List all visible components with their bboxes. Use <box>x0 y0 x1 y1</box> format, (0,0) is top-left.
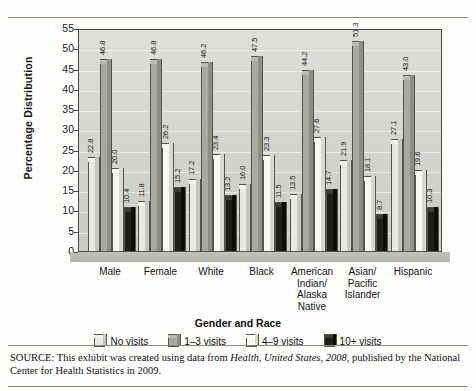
bar-side-face <box>131 207 136 251</box>
bar[interactable]: 11.8 <box>138 204 147 252</box>
y-tick-mark <box>74 70 78 71</box>
bar[interactable]: 46.2 <box>201 65 210 252</box>
bar[interactable]: 15.2 <box>174 190 183 252</box>
x-category-label-line: Indian/ <box>283 278 341 290</box>
bar[interactable]: 13.5 <box>290 197 299 252</box>
bar-value-label: 44.2 <box>300 52 309 66</box>
bar[interactable]: 51.3 <box>352 44 361 252</box>
bar-value-label: 51.3 <box>351 23 360 37</box>
bar-group: 17.246.223.413.2 <box>189 29 234 252</box>
y-tick-30: 30 <box>48 123 74 135</box>
x-category-label-line: Male <box>81 266 139 278</box>
bar[interactable]: 10.4 <box>124 210 133 252</box>
x-category-label: Asian/PacificIslander <box>334 266 392 301</box>
figure-container: Percentage Distribution 0510152025303540… <box>0 0 476 391</box>
x-category-label: White <box>182 266 240 278</box>
x-category-label-line: Pacific <box>334 278 392 290</box>
bar[interactable]: 8.7 <box>376 217 385 252</box>
x-category-label-line: Islander <box>334 289 392 301</box>
bar-side-face <box>434 207 439 251</box>
bar-value-label: 46.8 <box>149 41 158 55</box>
y-tick-mark <box>74 211 78 212</box>
bar[interactable]: 22.8 <box>88 160 97 252</box>
bar-value-label: 11.5 <box>274 185 283 199</box>
bar-value-label: 22.8 <box>86 138 95 152</box>
y-tick-mark <box>74 171 78 172</box>
y-tick-10: 10 <box>48 204 74 216</box>
bar-value-label: 18.1 <box>363 157 372 171</box>
x-category-label: AmericanIndian/AlaskaNative <box>283 266 341 312</box>
y-tick-55: 55 <box>48 22 74 34</box>
bar[interactable]: 16.0 <box>239 187 248 252</box>
bar-value-label: 14.7 <box>324 171 333 185</box>
y-tick-15: 15 <box>48 184 74 196</box>
bottom-divider-rule <box>8 386 468 387</box>
bar[interactable]: 19.6 <box>415 173 424 252</box>
bar[interactable]: 14.7 <box>326 192 335 252</box>
bar[interactable]: 20.0 <box>112 171 121 252</box>
y-tick-mark <box>74 29 78 30</box>
bar[interactable]: 47.5 <box>251 59 260 252</box>
y-tick-mark <box>74 252 78 253</box>
bar[interactable]: 23.4 <box>213 157 222 252</box>
bar-side-face <box>232 195 237 251</box>
bar[interactable]: 46.8 <box>100 62 109 252</box>
x-category-label-line: Black <box>233 266 291 278</box>
bar-value-label: 11.8 <box>137 184 146 198</box>
bar-value-label: 13.2 <box>223 177 232 191</box>
bar-value-label: 23.3 <box>262 136 271 150</box>
bar[interactable]: 43.0 <box>403 78 412 252</box>
bar-value-label: 15.2 <box>173 169 182 183</box>
x-category-label: Black <box>233 266 291 278</box>
bar[interactable]: 27.1 <box>391 142 400 252</box>
bar[interactable]: 26.2 <box>162 146 171 252</box>
bar-group: 16.047.523.311.5 <box>239 29 284 252</box>
source-italic-title: Health, United States, 2008 <box>230 352 346 363</box>
bar-value-label: 21.9 <box>339 142 348 156</box>
bar[interactable]: 46.8 <box>150 62 159 252</box>
y-tick-35: 35 <box>48 103 74 115</box>
bar-group: 22.846.820.010.4 <box>88 29 133 252</box>
bar-side-face <box>181 187 186 251</box>
bar-value-label: 10.4 <box>122 189 131 203</box>
x-category-label-line: Alaska <box>283 289 341 301</box>
x-category-label-line: Native <box>283 301 341 313</box>
bar-value-label: 23.4 <box>211 136 220 150</box>
x-category-label: Female <box>132 266 190 278</box>
bar[interactable]: 21.9 <box>340 163 349 252</box>
x-category-label: Hispanic <box>384 266 442 278</box>
source-top-rule <box>8 345 468 346</box>
bar[interactable]: 23.3 <box>263 158 272 252</box>
y-tick-mark <box>74 191 78 192</box>
bar[interactable]: 10.3 <box>427 210 436 252</box>
y-tick-mark <box>74 151 78 152</box>
bar-value-label: 47.5 <box>250 38 259 52</box>
bar[interactable]: 11.5 <box>275 205 284 252</box>
bar-value-label: 43.0 <box>401 56 410 70</box>
bar-value-label: 27.6 <box>312 119 321 133</box>
bar-value-label: 27.1 <box>389 121 398 135</box>
bar-group: 21.951.318.18.7 <box>340 29 385 252</box>
chart-floor-left-edge <box>70 252 79 262</box>
y-axis-tick-labels: 0510152025303540455055 <box>44 20 74 252</box>
source-note: SOURCE: This exhibit was created using d… <box>10 352 466 377</box>
y-tick-mark <box>74 49 78 50</box>
chart-floor-base <box>70 252 450 262</box>
bar-value-label: 8.7 <box>375 200 384 210</box>
y-axis-title: Percentage Distribution <box>22 28 34 208</box>
bar-side-face <box>333 189 338 251</box>
bar-group: 27.143.019.610.3 <box>391 29 436 252</box>
top-divider-rule <box>8 17 468 18</box>
bar-group: 11.846.826.215.2 <box>138 29 183 252</box>
y-tick-50: 50 <box>48 42 74 54</box>
y-tick-25: 25 <box>48 144 74 156</box>
bar[interactable]: 44.2 <box>302 73 311 252</box>
bar[interactable]: 27.6 <box>314 140 323 252</box>
bar-value-label: 20.0 <box>110 150 119 164</box>
bar[interactable]: 17.2 <box>189 182 198 252</box>
bar[interactable]: 18.1 <box>364 179 373 252</box>
bar[interactable]: 13.2 <box>225 198 234 252</box>
bar-value-label: 46.8 <box>98 41 107 55</box>
bar-value-label: 46.2 <box>199 43 208 57</box>
chart-plot-area: Percentage Distribution 0510152025303540… <box>0 20 476 342</box>
